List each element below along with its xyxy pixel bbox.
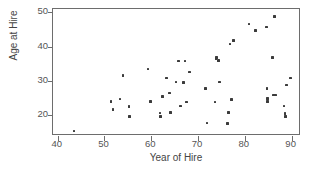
data-point xyxy=(266,97,269,100)
data-point xyxy=(274,94,277,97)
data-points-layer xyxy=(53,9,299,134)
y-tick-label: 50 xyxy=(26,6,48,16)
y-tick-mark xyxy=(48,115,53,116)
data-point xyxy=(179,105,182,108)
data-point xyxy=(266,100,269,103)
data-point xyxy=(119,98,122,101)
data-point xyxy=(204,87,207,90)
data-point xyxy=(214,101,217,104)
data-point xyxy=(254,29,257,32)
data-point xyxy=(184,60,187,63)
y-tick-label: 20 xyxy=(26,109,48,119)
data-point xyxy=(149,100,152,103)
data-point xyxy=(128,105,131,108)
data-point xyxy=(283,105,286,108)
data-point xyxy=(266,87,269,90)
data-point xyxy=(230,98,233,101)
y-tick-label: 30 xyxy=(26,75,48,85)
data-point xyxy=(122,74,125,77)
data-point xyxy=(271,56,274,59)
y-axis-title: Age at Hire xyxy=(8,0,19,81)
data-point xyxy=(284,112,287,115)
data-point xyxy=(112,108,115,111)
y-axis-tick-labels: 20304050 xyxy=(22,8,48,135)
data-point xyxy=(218,81,221,84)
x-axis-title: Year of Hire xyxy=(52,152,300,163)
data-point xyxy=(284,115,287,118)
x-tick-label: 60 xyxy=(138,138,162,149)
data-point xyxy=(289,77,292,80)
data-point xyxy=(165,77,168,80)
data-point xyxy=(73,130,76,133)
data-point xyxy=(110,100,113,103)
data-point xyxy=(248,23,251,26)
data-point xyxy=(175,81,178,84)
x-tick-label: 70 xyxy=(185,138,209,149)
data-point xyxy=(272,94,275,97)
data-point xyxy=(168,92,171,95)
x-tick-label: 80 xyxy=(232,138,256,149)
data-point xyxy=(229,43,232,46)
data-point xyxy=(161,95,164,98)
y-tick-mark xyxy=(48,12,53,13)
scatter-plot-figure: 20304050 405060708090 Age at Hire Year o… xyxy=(0,0,312,173)
data-point xyxy=(159,115,162,118)
data-point xyxy=(285,84,288,87)
data-point xyxy=(177,60,180,63)
plot-area xyxy=(52,8,300,135)
data-point xyxy=(182,81,185,84)
x-tick-label: 40 xyxy=(45,138,69,149)
x-tick-label: 90 xyxy=(279,138,303,149)
y-tick-label: 40 xyxy=(26,41,48,51)
y-tick-mark xyxy=(48,81,53,82)
data-point xyxy=(232,39,235,42)
data-point xyxy=(227,111,230,114)
y-tick-mark xyxy=(48,47,53,48)
data-point xyxy=(188,71,191,74)
data-point xyxy=(217,59,220,62)
data-point xyxy=(206,122,209,125)
x-axis-tick-labels: 405060708090 xyxy=(52,138,300,152)
data-point xyxy=(147,68,150,71)
data-point xyxy=(128,115,131,118)
data-point xyxy=(185,101,188,104)
data-point xyxy=(273,15,276,18)
data-point xyxy=(215,56,218,59)
data-point xyxy=(159,112,162,115)
data-point xyxy=(226,122,229,125)
data-point xyxy=(265,26,268,29)
x-tick-label: 50 xyxy=(91,138,115,149)
data-point xyxy=(215,57,218,60)
data-point xyxy=(169,111,172,114)
